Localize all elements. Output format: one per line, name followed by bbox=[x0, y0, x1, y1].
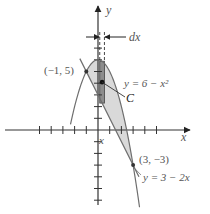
point-left-label: (−1, 5) bbox=[44, 64, 74, 77]
area-between-curves-figure: y x x dx C (−1, 5) (3, −3) y = 6 − x² y … bbox=[0, 0, 210, 214]
centroid-label: C bbox=[126, 91, 135, 105]
strip-x-label: x bbox=[98, 134, 104, 146]
shaded-region bbox=[86, 60, 133, 165]
line-label: y = 3 − 2x bbox=[142, 171, 190, 183]
dx-label: dx bbox=[129, 30, 141, 44]
parabola-label: y = 6 − x² bbox=[123, 77, 169, 89]
y-axis-label: y bbox=[105, 3, 112, 17]
intersection-point-left bbox=[84, 70, 88, 74]
point-right-label: (3, −3) bbox=[139, 153, 169, 166]
centroid-point bbox=[100, 80, 105, 85]
intersection-point-right bbox=[131, 163, 135, 167]
x-axis-label: x bbox=[180, 130, 187, 144]
dx-marker bbox=[86, 32, 126, 61]
